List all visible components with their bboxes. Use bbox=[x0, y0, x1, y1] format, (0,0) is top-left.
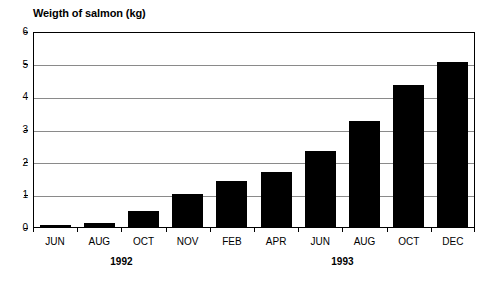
x-tick-label-4: FEB bbox=[222, 237, 241, 247]
y-tick-mark-0 bbox=[24, 228, 28, 229]
group-label-1992: 1992 bbox=[110, 257, 132, 267]
x-tick-label-3: NOV bbox=[177, 237, 199, 247]
x-axis: JUNAUGOCTNOVFEBAPRJUNAUGOCTDEC19921993 bbox=[33, 228, 475, 283]
x-tick-mark-3 bbox=[166, 228, 167, 232]
x-tick-mark-7 bbox=[342, 228, 343, 232]
gridline-4 bbox=[34, 98, 474, 99]
chart-title: Weigth of salmon (kg) bbox=[33, 7, 146, 19]
group-label-1993: 1993 bbox=[331, 257, 353, 267]
gridline-2 bbox=[34, 163, 474, 164]
x-tick-label-1: AUG bbox=[88, 237, 110, 247]
x-tick-mark-6 bbox=[298, 228, 299, 232]
x-tick-mark-8 bbox=[387, 228, 388, 232]
x-tick-label-6: JUN bbox=[311, 237, 330, 247]
gridline-5 bbox=[34, 65, 474, 66]
y-axis: 0123456 bbox=[0, 32, 28, 228]
y-tick-mark-5 bbox=[24, 64, 28, 65]
x-tick-mark-0 bbox=[33, 228, 34, 232]
plot-area bbox=[33, 32, 475, 228]
x-tick-mark-2 bbox=[121, 228, 122, 232]
y-tick-mark-2 bbox=[24, 162, 28, 163]
salmon-weight-bar-chart: Weigth of salmon (kg) 0123456 JUNAUGOCTN… bbox=[0, 0, 491, 283]
x-tick-label-8: OCT bbox=[398, 237, 419, 247]
y-tick-mark-1 bbox=[24, 195, 28, 196]
y-tick-mark-4 bbox=[24, 97, 28, 98]
x-tick-mark-4 bbox=[210, 228, 211, 232]
gridline-1 bbox=[34, 196, 474, 197]
gridline-3 bbox=[34, 131, 474, 132]
x-tick-mark-1 bbox=[77, 228, 78, 232]
x-tick-mark-9 bbox=[431, 228, 432, 232]
x-tick-label-5: APR bbox=[266, 237, 287, 247]
x-tick-label-0: JUN bbox=[45, 237, 64, 247]
x-tick-mark-10 bbox=[474, 228, 475, 232]
x-tick-label-9: DEC bbox=[442, 237, 463, 247]
x-tick-mark-5 bbox=[254, 228, 255, 232]
y-tick-mark-6 bbox=[24, 32, 28, 33]
y-tick-mark-3 bbox=[24, 130, 28, 131]
x-tick-label-7: AUG bbox=[354, 237, 376, 247]
x-tick-label-2: OCT bbox=[133, 237, 154, 247]
